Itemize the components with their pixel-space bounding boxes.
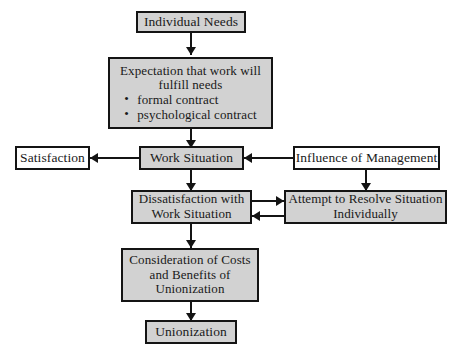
- node-expectation-bullet-1: formal contract: [124, 93, 257, 108]
- arrowhead-dissatisfaction-to-consideration: [186, 240, 196, 248]
- node-expectation[interactable]: Expectation that work will fulfill needs…: [108, 57, 273, 129]
- node-expectation-line-1: Expectation that work will: [120, 64, 261, 79]
- node-expectation-line-2: fulfill needs: [159, 78, 223, 93]
- node-consideration-line-2: and Benefits of: [150, 268, 231, 283]
- node-satisfaction-label: Satisfaction: [20, 150, 85, 165]
- node-work-situation-label: Work Situation: [150, 150, 233, 165]
- node-consideration-line-3: Unionization: [155, 282, 224, 297]
- node-individual-needs-label: Individual Needs: [144, 14, 238, 29]
- arrowhead-influence-to-work-situation: [244, 153, 252, 163]
- node-dissatisfaction-line-2: Work Situation: [151, 207, 231, 222]
- node-influence-of-management[interactable]: Influence of Management: [293, 146, 440, 170]
- node-attempt-to-resolve[interactable]: Attempt to Resolve Situation Individuall…: [284, 190, 447, 224]
- node-expectation-bullet-list: formal contract psychological contract: [124, 93, 257, 122]
- flowchart-diagram: Individual Needs Expectation that work w…: [0, 0, 462, 358]
- node-unionization-label: Unionization: [155, 324, 227, 339]
- node-unionization[interactable]: Unionization: [145, 320, 237, 344]
- arrowhead-work-situation-to-satisfaction: [90, 153, 98, 163]
- node-dissatisfaction[interactable]: Dissatisfaction with Work Situation: [131, 190, 252, 224]
- node-satisfaction[interactable]: Satisfaction: [15, 146, 90, 170]
- arrowhead-dissatisfaction-to-attempt: [276, 196, 284, 206]
- arrowhead-attempt-to-dissatisfaction: [252, 211, 260, 221]
- node-attempt-to-resolve-line-1: Attempt to Resolve Situation: [288, 192, 442, 207]
- node-expectation-bullet-2: psychological contract: [124, 108, 257, 123]
- node-individual-needs[interactable]: Individual Needs: [136, 11, 246, 33]
- node-attempt-to-resolve-line-2: Individually: [333, 207, 398, 222]
- arrowhead-needs-to-expectation: [186, 47, 196, 55]
- node-influence-of-management-label: Influence of Management: [296, 150, 438, 165]
- node-work-situation[interactable]: Work Situation: [139, 146, 244, 170]
- node-consideration-line-1: Consideration of Costs: [129, 253, 250, 268]
- node-consideration[interactable]: Consideration of Costs and Benefits of U…: [121, 248, 259, 302]
- node-dissatisfaction-line-1: Dissatisfaction with: [139, 192, 245, 207]
